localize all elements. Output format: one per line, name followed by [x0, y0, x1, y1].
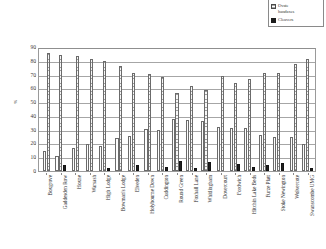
x-tick-label: Bowman's Lodge: [121, 175, 126, 211]
bar-ovate-handaxes: [161, 77, 164, 171]
x-tick-label: Round Green: [179, 175, 184, 203]
bar-cleavers: [252, 167, 255, 171]
chart-figure: Pointed handaxes Ovate handaxes Cleavers…: [0, 0, 326, 249]
bar-pointed-handaxes: [230, 128, 233, 171]
bar-pointed-handaxes: [72, 148, 75, 171]
x-tick-label: Wolvercote: [295, 175, 300, 199]
legend-label-ovate-line2: handaxes: [278, 9, 294, 14]
x-tick-label: High Lodge: [106, 175, 111, 200]
x-tick-label: Holybourne Down: [150, 175, 155, 214]
x-axis-labels: BoxgroveGaddesden RowHoxneWarsashHigh Lo…: [39, 173, 315, 249]
bar-cleavers: [179, 161, 182, 171]
bar-cleavers: [107, 168, 110, 171]
bar-ovate-handaxes: [204, 90, 207, 171]
bar-pointed-handaxes: [99, 146, 102, 171]
bar-cleavers: [63, 165, 66, 171]
y-tick-mark: [34, 144, 36, 145]
bar-cleavers: [266, 165, 269, 171]
bar-group: [213, 48, 228, 171]
bar-ovate-handaxes: [103, 61, 106, 171]
bar-pointed-handaxes: [259, 135, 262, 172]
bar-ovate-handaxes: [132, 73, 135, 171]
legend-swatch-cleavers-icon: [271, 18, 276, 23]
legend-swatch-ovate-icon: [271, 4, 276, 9]
x-tick-label: Boxgrove: [48, 175, 53, 196]
bar-pointed-handaxes: [128, 136, 131, 171]
bar-group: [286, 48, 301, 171]
bar-group: [228, 48, 243, 171]
bar-ovate-handaxes: [148, 74, 151, 171]
bar-group: [155, 48, 170, 171]
bar-group: [83, 48, 98, 171]
bar-ovate-handaxes: [119, 66, 122, 171]
y-tick-mark: [34, 158, 36, 159]
bar-pointed-handaxes: [273, 137, 276, 171]
bar-ovate-handaxes: [277, 73, 280, 171]
bar-ovate-handaxes: [306, 59, 309, 171]
y-tick-mark: [34, 172, 36, 173]
bar-cleavers: [281, 163, 284, 171]
bar-ovate-handaxes: [294, 64, 297, 171]
bar-group: [39, 48, 54, 171]
bar-pointed-handaxes: [144, 129, 147, 171]
bar-pointed-handaxes: [244, 128, 247, 171]
bar-pointed-handaxes: [86, 144, 89, 171]
y-tick-mark: [34, 131, 36, 132]
bar-pointed-handaxes: [157, 130, 160, 171]
y-tick-mark: [34, 117, 36, 118]
y-tick-mark: [34, 76, 36, 77]
legend-item-cleavers: Cleavers: [271, 17, 320, 23]
x-tick-label: Gaddesden Row: [63, 175, 68, 209]
bar-pointed-handaxes: [172, 119, 175, 171]
x-tick-label: Dovercourt: [223, 175, 228, 199]
legend-item-ovate-handaxes: Ovate handaxes: [271, 3, 320, 13]
bar-ovate-handaxes: [90, 59, 93, 171]
bar-ovate-handaxes: [248, 79, 251, 171]
bar-group: [112, 48, 127, 171]
bar-group: [68, 48, 83, 171]
bar-ovate-handaxes: [234, 83, 237, 171]
bar-group: [257, 48, 272, 171]
bar-pointed-handaxes: [201, 121, 204, 171]
x-tick-label: Hitchin Lake Beds: [252, 175, 257, 214]
y-axis-ticks: 0102030405060708090: [16, 48, 36, 172]
x-tick-label: Fordwich: [237, 175, 242, 195]
y-tick-mark: [34, 48, 36, 49]
y-tick-mark: [34, 89, 36, 90]
x-tick-label: Elveden: [135, 175, 140, 192]
bar-cleavers: [208, 162, 211, 171]
bar-ovate-handaxes: [47, 53, 50, 171]
x-tick-label: Stoke Newington: [281, 175, 286, 211]
bar-group: [271, 48, 286, 171]
bar-group: [126, 48, 141, 171]
bar-pointed-handaxes: [217, 127, 220, 171]
bar-pointed-handaxes: [115, 138, 118, 171]
legend-label-ovate: Ovate handaxes: [278, 3, 294, 13]
bar-ovate-handaxes: [190, 86, 193, 171]
bar-pointed-handaxes: [302, 144, 305, 171]
bar-cleavers: [237, 164, 240, 171]
x-tick-label: Cuddington: [164, 175, 169, 200]
bar-group: [97, 48, 112, 171]
bar-ovate-handaxes: [263, 73, 266, 172]
y-tick-mark: [34, 103, 36, 104]
x-tick-label: Whitlingham: [208, 175, 213, 202]
x-tick-label: Warsash: [92, 175, 97, 192]
x-tick-label: Hoxne: [77, 175, 82, 189]
bar-ovate-handaxes: [59, 55, 62, 171]
x-tick-label: Swanscombe UMG: [310, 175, 315, 216]
bar-cleavers: [310, 168, 313, 171]
bar-group: [54, 48, 69, 171]
bar-ovate-handaxes: [221, 76, 224, 171]
bar-group: [242, 48, 257, 171]
bar-group: [184, 48, 199, 171]
bar-group: [300, 48, 315, 171]
chart-legend: Pointed handaxes Ovate handaxes Cleavers: [268, 0, 324, 27]
y-tick-mark: [34, 62, 36, 63]
bar-group: [199, 48, 214, 171]
bar-cleavers: [165, 167, 168, 171]
bar-ovate-handaxes: [76, 56, 79, 171]
bar-pointed-handaxes: [43, 151, 46, 171]
x-tick-label: Furze Platt: [266, 175, 271, 198]
bar-pointed-handaxes: [290, 137, 293, 171]
